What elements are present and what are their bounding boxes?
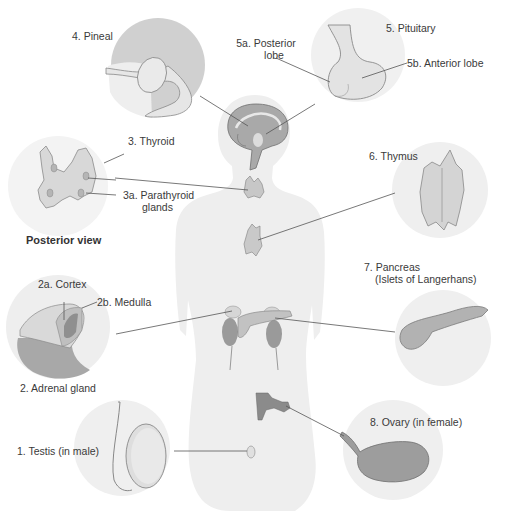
diagram-artwork [0, 0, 505, 511]
label-pancreas-line1: 7. Pancreas [364, 261, 420, 273]
label-adrenal-gland: 2. Adrenal gland [20, 382, 96, 394]
label-posterior-lobe-line2: lobe [244, 49, 304, 61]
label-thymus: 6. Thymus [369, 150, 418, 162]
label-pineal: 4. Pineal [72, 30, 113, 42]
label-pancreas-line2: (Islets of Langerhans) [375, 273, 477, 285]
label-pituitary: 5. Pituitary [386, 22, 436, 34]
label-ovary: 8. Ovary (in female) [370, 416, 462, 428]
label-anterior-lobe: 5b. Anterior lobe [407, 57, 483, 69]
label-testis: 1. Testis (in male) [17, 445, 99, 457]
testis-body-art [247, 446, 255, 458]
label-posterior-view: Posterior view [26, 234, 101, 246]
label-posterior-lobe-line1: 5a. Posterior [231, 37, 301, 49]
label-parathyroid-line2: glands [142, 201, 173, 213]
endocrine-diagram: 4. Pineal 5. Pituitary 5a. Posterior lob… [0, 0, 505, 511]
label-medulla: 2b. Medulla [97, 296, 151, 308]
label-thyroid: 3. Thyroid [128, 135, 175, 147]
label-parathyroid-line1: 3a. Parathyroid [123, 189, 194, 201]
label-cortex: 2a. Cortex [38, 278, 86, 290]
